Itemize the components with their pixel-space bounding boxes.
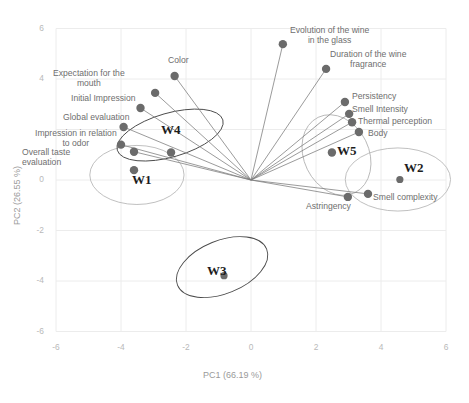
- group-point-w2[interactable]: [396, 176, 403, 183]
- variable-ray: [251, 114, 349, 180]
- variable-label: Smell Intensity: [352, 104, 408, 114]
- variable-ray: [251, 44, 283, 180]
- variable-label: Body: [368, 128, 388, 138]
- group-label-w2: W2: [404, 160, 424, 176]
- variable-label: Impression in relation to odor: [35, 128, 117, 149]
- variable-point[interactable]: [136, 104, 144, 112]
- variable-point[interactable]: [151, 89, 159, 97]
- variable-ray: [141, 108, 252, 180]
- pca-biplot-figure: ColorExpectation for the mouthInitial Im…: [0, 0, 469, 403]
- variable-label: Global evaluation: [63, 112, 129, 122]
- variable-ray: [251, 180, 348, 197]
- y-tick-label: -2: [26, 225, 44, 235]
- variable-ray: [251, 102, 345, 180]
- variable-label: Astringency: [306, 201, 351, 211]
- variable-point[interactable]: [322, 65, 330, 73]
- y-tick-label: 0: [26, 174, 44, 184]
- group-points: [130, 148, 404, 279]
- x-tick-label: 6: [436, 342, 456, 352]
- variable-point[interactable]: [130, 148, 138, 156]
- variable-point[interactable]: [348, 118, 356, 126]
- variable-label: Color: [168, 55, 189, 65]
- variable-point[interactable]: [279, 40, 287, 48]
- x-tick-label: 4: [371, 342, 391, 352]
- x-tick-label: -4: [111, 342, 131, 352]
- variable-point[interactable]: [119, 123, 127, 131]
- y-axis-title: PC2 (26.55 %): [12, 166, 22, 225]
- group-label-w4: W4: [161, 122, 181, 138]
- variable-label: Initial Impression: [71, 93, 135, 103]
- variable-label: Thermal perception: [358, 116, 432, 126]
- group-point-w5[interactable]: [328, 148, 336, 156]
- variable-label: Overall taste evaluation: [22, 147, 70, 168]
- x-tick-label: -2: [176, 342, 196, 352]
- x-tick-label: 0: [241, 342, 261, 352]
- variable-label: Expectation for the mouth: [53, 68, 125, 89]
- variable-label: Persistency: [352, 91, 396, 101]
- y-tick-label: -6: [26, 326, 44, 336]
- group-ellipses: [90, 99, 451, 310]
- variable-point[interactable]: [355, 128, 363, 136]
- variable-point[interactable]: [341, 98, 349, 106]
- variable-point[interactable]: [117, 140, 125, 148]
- y-tick-label: 6: [26, 23, 44, 33]
- variable-label: Evolution of the wine in the glass: [290, 25, 369, 46]
- variable-label: Smell complexity: [373, 192, 437, 202]
- group-point-w4[interactable]: [167, 148, 175, 156]
- variable-point[interactable]: [344, 193, 352, 201]
- x-axis-title: PC1 (66.19 %): [203, 370, 262, 380]
- variable-point[interactable]: [170, 72, 178, 80]
- group-label-w5: W5: [337, 143, 357, 159]
- x-tick-label: 2: [306, 342, 326, 352]
- variable-point[interactable]: [364, 190, 372, 198]
- group-label-w3: W3: [207, 263, 227, 279]
- variable-label: Duration of the wine fragrance: [330, 49, 406, 70]
- x-tick-label: -6: [46, 342, 66, 352]
- y-tick-label: -4: [26, 275, 44, 285]
- variable-ray: [251, 180, 368, 194]
- group-label-w1: W1: [132, 172, 152, 188]
- y-tick-label: 4: [26, 73, 44, 83]
